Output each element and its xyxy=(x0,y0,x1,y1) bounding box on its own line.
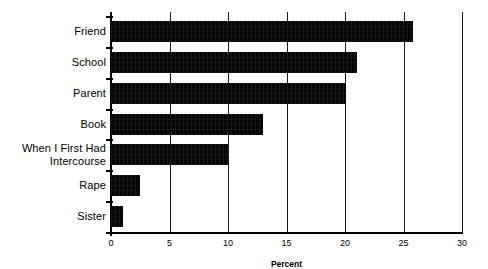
category-label-school: School xyxy=(0,56,106,69)
category-label-friend: Friend xyxy=(0,25,106,38)
gridline-15 xyxy=(287,12,288,232)
x-axis-title: Percent xyxy=(257,259,317,269)
y-tick-2 xyxy=(106,78,113,80)
x-tick-label-10: 10 xyxy=(213,238,243,248)
x-axis-line xyxy=(110,232,463,234)
y-tick-6 xyxy=(106,201,113,203)
gridline-30 xyxy=(462,12,463,232)
bar-book xyxy=(111,114,263,135)
bar-friend xyxy=(111,21,413,42)
x-tick-label-15: 15 xyxy=(272,238,302,248)
x-tick-label-20: 20 xyxy=(330,238,360,248)
bar-rape xyxy=(111,175,140,196)
category-label-rape: Rape xyxy=(0,179,106,192)
bar-when-i-first-had-intercourse xyxy=(111,144,228,165)
category-label-when-i-first-had-intercourse: When I First Had Intercourse xyxy=(0,142,106,167)
gridline-25 xyxy=(404,12,405,232)
bar-parent xyxy=(111,83,346,104)
y-tick-3 xyxy=(106,109,113,111)
category-label-sister: Sister xyxy=(0,210,106,223)
y-tick-4 xyxy=(106,139,113,141)
bar-sister xyxy=(111,206,123,227)
category-label-parent: Parent xyxy=(0,87,106,100)
y-tick-7 xyxy=(106,232,113,234)
x-tick-label-30: 30 xyxy=(447,238,477,248)
category-axis-labels: Friend School Parent Book When I First H… xyxy=(0,16,106,232)
y-tick-0 xyxy=(106,16,113,18)
y-tick-5 xyxy=(106,170,113,172)
x-tick-label-0: 0 xyxy=(96,238,126,248)
gridline-20 xyxy=(345,12,346,232)
plot-area: 051015202530 Percent xyxy=(111,16,462,232)
bar-school xyxy=(111,52,357,73)
y-tick-1 xyxy=(106,47,113,49)
x-tick-label-5: 5 xyxy=(155,238,185,248)
category-label-book: Book xyxy=(0,118,106,131)
x-tick-label-25: 25 xyxy=(389,238,419,248)
